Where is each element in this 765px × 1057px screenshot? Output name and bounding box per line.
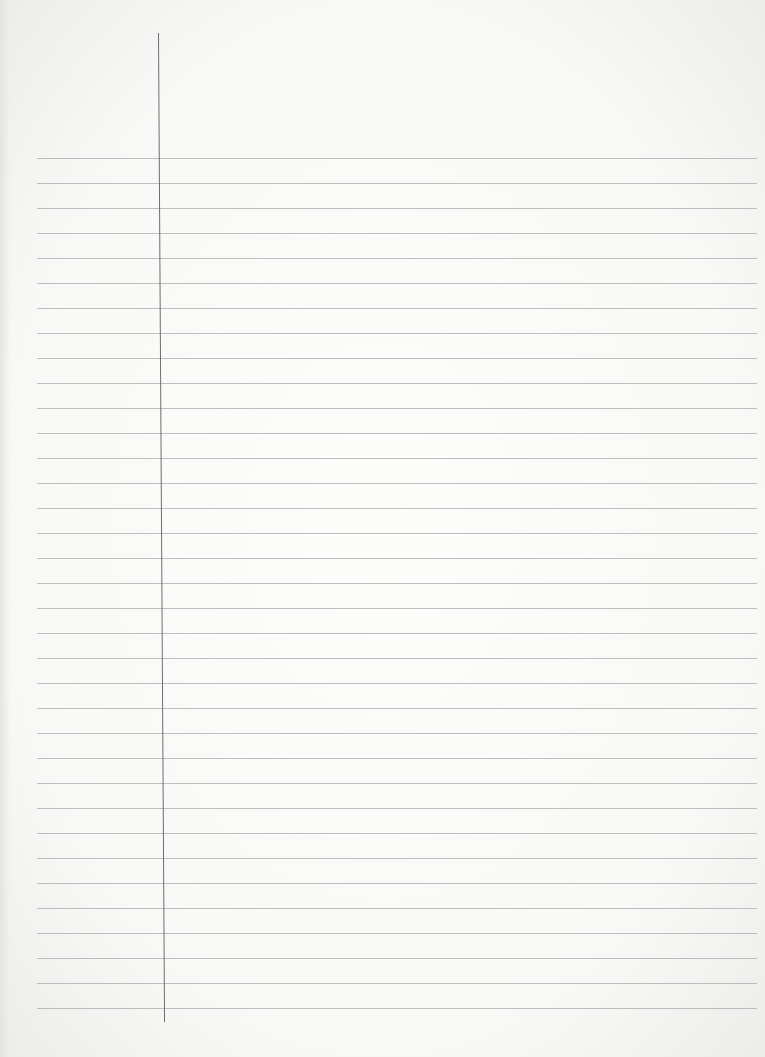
ruled-line [37, 933, 757, 934]
ruled-line [37, 583, 757, 584]
ruled-line [37, 183, 757, 184]
ruled-line [37, 858, 757, 859]
ruled-line [37, 983, 757, 984]
ruled-line [37, 483, 757, 484]
ruled-line [37, 958, 757, 959]
ruled-line [37, 758, 757, 759]
margin-line [158, 33, 165, 1022]
ruled-line [37, 783, 757, 784]
ruled-line [37, 658, 757, 659]
ruled-line [37, 1008, 757, 1009]
ruled-line [37, 508, 757, 509]
ruled-line [37, 533, 757, 534]
ruled-line [37, 258, 757, 259]
ruled-line [37, 408, 757, 409]
ruled-line [37, 708, 757, 709]
ruled-line [37, 633, 757, 634]
ruled-line [37, 908, 757, 909]
ruled-line [37, 308, 757, 309]
ruled-line [37, 233, 757, 234]
ruled-line [37, 333, 757, 334]
ruled-line [37, 158, 757, 159]
ruled-line [37, 883, 757, 884]
ruled-line [37, 283, 757, 284]
ruled-line [37, 558, 757, 559]
ruled-line [37, 808, 757, 809]
ruled-line [37, 358, 757, 359]
ruled-line [37, 458, 757, 459]
ruled-line [37, 733, 757, 734]
ruled-line [37, 383, 757, 384]
ruled-line [37, 683, 757, 684]
page-edge-shadow [0, 0, 10, 1057]
ruled-line [37, 833, 757, 834]
ruled-line [37, 433, 757, 434]
ruled-line [37, 208, 757, 209]
notebook-page [0, 0, 765, 1057]
ruled-line [37, 608, 757, 609]
